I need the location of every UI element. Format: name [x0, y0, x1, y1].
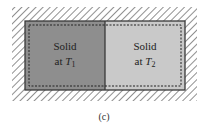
right-label-line1: Solid	[133, 40, 157, 52]
figure-caption: (c)	[98, 111, 109, 123]
left-label-line1: Solid	[53, 40, 77, 52]
diagram: Solid at T1 Solid at T2 (c)	[0, 0, 209, 129]
